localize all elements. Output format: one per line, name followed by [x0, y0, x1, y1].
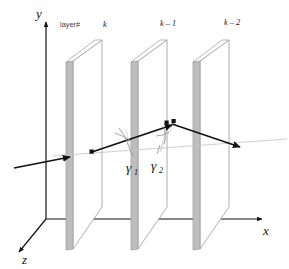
layer-labels: layer# k k – 1 k – 2 — [60, 18, 240, 29]
layer-index-k-minus-2: k – 2 — [224, 18, 240, 27]
layer-plate-k-minus-2-edge — [193, 61, 200, 250]
gamma1-arc-tick — [115, 133, 131, 141]
ray-vertex-dot-1 — [90, 150, 94, 154]
gamma1-label: γ — [126, 160, 132, 175]
layer-caption: layer# — [60, 20, 80, 29]
ray-incoming-segment — [14, 157, 70, 168]
x-axis-label: x — [262, 223, 269, 238]
z-axis-line — [19, 219, 46, 252]
y-axis-label: y — [34, 6, 42, 21]
gamma2-label: γ — [151, 158, 157, 173]
ray-layer-diagram: y x z layer# k k – 1 — [0, 0, 289, 269]
ray-vertex-dot-2 — [165, 121, 169, 125]
gamma1-subscript: 1 — [134, 168, 138, 177]
layer-index-k: k — [103, 20, 107, 29]
diagram-canvas: y x z layer# k k – 1 — [0, 0, 289, 269]
layer-plate-k-minus-1-face — [138, 40, 167, 249]
z-axis-label: z — [21, 252, 27, 267]
layer-index-k-minus-1: k – 1 — [160, 19, 176, 28]
gamma2-subscript: 2 — [159, 166, 163, 175]
layer-plate-k-edge — [66, 61, 73, 250]
layer-plate-k-face — [73, 40, 102, 249]
ray-vertex-dot-3 — [172, 119, 176, 123]
